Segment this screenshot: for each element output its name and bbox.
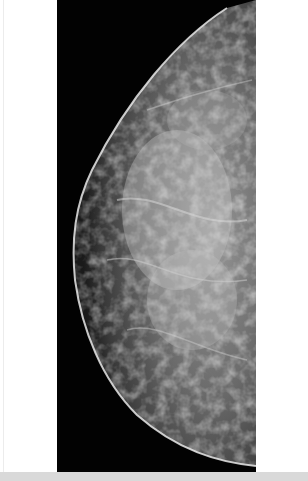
page-right-margin xyxy=(256,0,308,472)
page-left-border xyxy=(3,0,4,472)
breast-tissue-illustration xyxy=(57,0,256,472)
mammogram-image xyxy=(57,0,256,472)
bottom-band xyxy=(0,472,308,481)
